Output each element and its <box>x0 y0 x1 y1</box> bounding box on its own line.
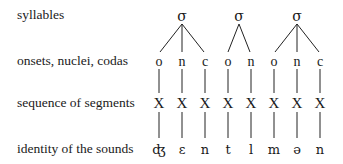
sound-node: ɛ <box>179 142 186 157</box>
sound-node: n <box>316 142 325 157</box>
constituent-node: o <box>156 54 163 69</box>
segment-node: X <box>292 95 303 111</box>
syllable-nodes: σ σ σ <box>177 8 302 24</box>
segment-node: X <box>177 95 188 111</box>
segment-node: X <box>246 95 257 111</box>
constituent-node: c <box>202 54 208 69</box>
constituent-node: o <box>225 54 232 69</box>
segment-node: X <box>154 95 165 111</box>
syllable-node: σ <box>234 8 244 24</box>
constituent-node: o <box>271 54 278 69</box>
sound-node: t <box>225 142 231 157</box>
sound-node: ə <box>293 142 301 157</box>
syllable-node: σ <box>292 8 302 24</box>
syllable-node: σ <box>177 8 187 24</box>
sound-node: n <box>201 142 210 157</box>
sound-node: ʤ <box>152 142 165 157</box>
constituent-node: c <box>317 54 323 69</box>
constituent-node: n <box>248 54 255 69</box>
syllable-tree-diagram: σ σ σ o n c o n o n c X X X X X X X X ʤ … <box>0 0 343 164</box>
segment-node: X <box>223 95 234 111</box>
constituent-node: n <box>179 54 186 69</box>
constituent-nodes: o n c o n o n c <box>156 54 324 69</box>
sound-nodes: ʤ ɛ n t l m ə n <box>152 142 325 157</box>
segment-nodes: X X X X X X X X <box>154 95 326 111</box>
sound-node: m <box>268 142 280 157</box>
tree-edges <box>159 24 320 138</box>
sound-node: l <box>249 142 253 157</box>
segment-node: X <box>269 95 280 111</box>
segment-node: X <box>200 95 211 111</box>
segment-node: X <box>315 95 326 111</box>
constituent-node: n <box>294 54 301 69</box>
